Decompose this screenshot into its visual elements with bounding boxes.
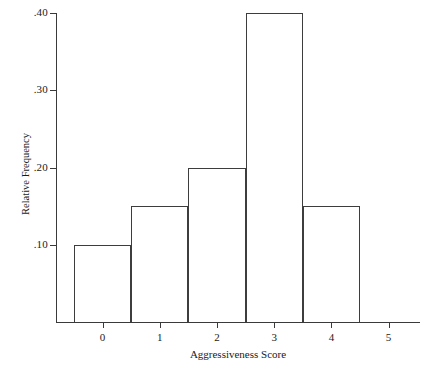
x-tick-label: 4 bbox=[316, 331, 346, 344]
histogram-bar bbox=[131, 206, 188, 322]
x-tick-mark bbox=[217, 323, 218, 328]
histogram-figure: .10.20.30.40 012345 Aggressiveness Score… bbox=[0, 0, 424, 368]
histogram-bar bbox=[188, 168, 245, 322]
y-tick-mark bbox=[50, 13, 56, 14]
histogram-bar bbox=[246, 13, 303, 322]
x-tick-label: 5 bbox=[374, 331, 404, 344]
histogram-bar bbox=[303, 206, 360, 322]
x-tick-label: 0 bbox=[88, 331, 118, 344]
y-tick-mark bbox=[50, 168, 56, 169]
x-tick-mark bbox=[160, 323, 161, 328]
x-tick-label: 3 bbox=[259, 331, 289, 344]
y-axis-title: Relative Frequency bbox=[20, 74, 32, 274]
y-tick-label-text: .40 bbox=[4, 7, 48, 18]
x-tick-label: 2 bbox=[202, 331, 232, 344]
histogram-bar bbox=[74, 245, 131, 322]
x-axis-title: Aggressiveness Score bbox=[56, 348, 420, 361]
x-axis-line bbox=[56, 322, 420, 323]
y-axis-line bbox=[56, 13, 57, 323]
y-tick-mark bbox=[50, 90, 56, 91]
y-tick-label: .40 bbox=[0, 7, 48, 18]
plot-area: .10.20.30.40 012345 Aggressiveness Score… bbox=[0, 0, 424, 368]
y-tick-mark bbox=[50, 245, 56, 246]
x-tick-label: 1 bbox=[145, 331, 175, 344]
x-tick-mark bbox=[331, 323, 332, 328]
x-tick-mark bbox=[274, 323, 275, 328]
x-tick-mark bbox=[103, 323, 104, 328]
x-tick-mark bbox=[389, 323, 390, 328]
